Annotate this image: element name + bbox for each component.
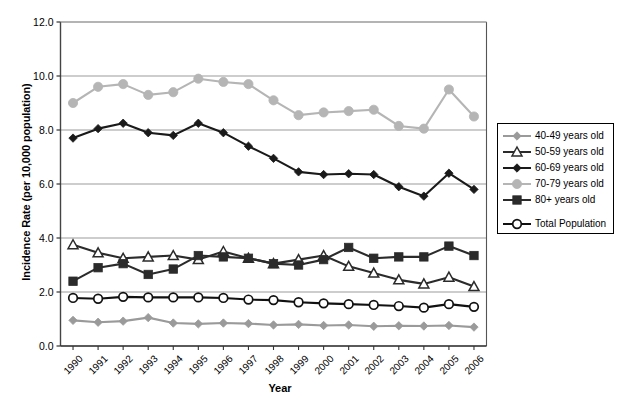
legend-marker-icon <box>510 217 524 231</box>
data-point-marker <box>369 105 378 114</box>
data-point-marker <box>294 261 302 269</box>
x-axis-title: Year <box>0 382 560 394</box>
data-point-marker <box>294 111 303 120</box>
data-point-marker <box>395 322 403 330</box>
data-point-marker <box>194 293 203 302</box>
data-point-marker <box>369 301 378 310</box>
legend-marker-icon <box>510 177 524 191</box>
data-point-marker <box>119 80 128 89</box>
data-point-marker <box>244 142 252 150</box>
data-point-marker <box>444 85 453 94</box>
data-point-marker <box>144 90 153 99</box>
data-point-marker <box>513 132 521 140</box>
data-point-marker <box>94 294 103 303</box>
chart-figure: Incidence Rate (per 10,000 population) Y… <box>0 0 620 410</box>
data-point-marker <box>344 107 353 116</box>
data-point-marker <box>395 253 403 261</box>
data-point-marker <box>394 302 403 311</box>
data-point-marker <box>513 164 521 172</box>
data-point-marker <box>319 255 327 263</box>
legend-item-label: 60-69 years old <box>532 162 604 173</box>
data-point-marker <box>344 300 353 309</box>
data-point-marker <box>194 74 203 83</box>
data-point-marker <box>444 272 454 281</box>
data-point-marker <box>194 119 202 127</box>
data-point-marker <box>169 265 177 273</box>
data-point-marker <box>119 119 127 127</box>
data-point-marker <box>370 170 378 178</box>
data-point-marker <box>119 293 128 302</box>
legend-item-label: 50-59 years old <box>532 146 604 157</box>
data-point-marker <box>319 108 328 117</box>
legend-item[interactable]: 60-69 years old <box>502 160 604 175</box>
data-point-marker <box>219 77 228 86</box>
legend-item-label: Total Population <box>532 218 606 229</box>
data-point-marker <box>420 253 428 261</box>
data-point-marker <box>94 264 102 272</box>
data-point-marker <box>469 112 478 121</box>
data-point-marker <box>68 98 77 107</box>
series-40-49-years-old <box>69 313 478 331</box>
legend-item[interactable]: 80+ years old <box>502 192 595 207</box>
data-point-marker <box>269 296 278 305</box>
legend-swatch-icon <box>502 129 532 142</box>
data-point-marker <box>169 131 177 139</box>
legend-swatch-icon <box>502 145 532 158</box>
legend-swatch-icon <box>502 177 532 190</box>
y-tick-label: 0.0 <box>16 341 54 351</box>
legend-marker-icon <box>510 129 524 143</box>
data-point-marker <box>513 220 522 229</box>
legend-marker-icon <box>510 161 524 175</box>
legend-item[interactable]: 40-49 years old <box>502 128 604 143</box>
data-point-marker <box>194 251 202 259</box>
y-tick-label: 12.0 <box>16 17 54 27</box>
legend-item[interactable]: 70-79 years old <box>502 176 604 191</box>
data-point-marker <box>319 170 327 178</box>
legend-swatch-icon <box>502 161 532 174</box>
data-point-marker <box>420 322 428 330</box>
y-tick-label: 10.0 <box>16 71 54 81</box>
series-80-years-old <box>69 242 478 286</box>
legend-item[interactable]: Total Population <box>502 216 606 231</box>
legend-item-label: 80+ years old <box>532 194 595 205</box>
legend-marker-icon <box>510 145 524 159</box>
data-point-marker <box>344 321 352 329</box>
series-total-population <box>69 293 479 312</box>
data-point-marker <box>319 299 328 308</box>
data-point-marker <box>219 294 228 303</box>
data-point-marker <box>68 240 78 249</box>
data-point-marker <box>169 88 178 97</box>
data-point-marker <box>470 251 478 259</box>
data-point-marker <box>244 319 252 327</box>
data-point-marker <box>244 254 252 262</box>
data-point-marker <box>69 277 77 285</box>
data-point-marker <box>419 124 428 133</box>
data-point-marker <box>445 242 453 250</box>
data-point-marker <box>513 196 521 204</box>
legend-item[interactable]: 50-59 years old <box>502 144 604 159</box>
chart-legend: 40-49 years old50-59 years old60-69 year… <box>497 123 614 234</box>
y-tick-label: 4.0 <box>16 233 54 243</box>
legend-item-label: 70-79 years old <box>532 178 604 189</box>
data-point-marker <box>219 319 227 327</box>
data-point-marker <box>370 254 378 262</box>
y-tick-label: 8.0 <box>16 125 54 135</box>
legend-item-label: 40-49 years old <box>532 130 604 141</box>
series-60-69-years-old <box>69 119 478 200</box>
data-point-marker <box>119 317 127 325</box>
data-point-marker <box>69 316 77 324</box>
data-point-marker <box>244 295 253 304</box>
legend-marker-icon <box>510 193 524 207</box>
data-point-marker <box>319 321 327 329</box>
data-point-marker <box>294 320 302 328</box>
data-point-marker <box>394 121 403 130</box>
data-point-marker <box>512 147 522 156</box>
data-point-marker <box>144 293 153 302</box>
data-point-marker <box>512 179 521 188</box>
data-point-marker <box>144 270 152 278</box>
data-point-marker <box>144 313 152 321</box>
data-point-marker <box>269 259 277 267</box>
data-point-marker <box>94 124 102 132</box>
data-point-marker <box>445 300 454 309</box>
data-point-marker <box>294 298 303 307</box>
